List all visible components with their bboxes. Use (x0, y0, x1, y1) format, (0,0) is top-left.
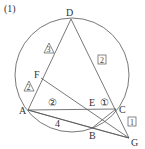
triangle-marker-2-text: 2 (27, 83, 31, 92)
label-B: B (89, 130, 96, 141)
segment-AC (28, 109, 116, 110)
label-D: D (66, 7, 73, 18)
label-G: G (131, 137, 138, 148)
segment-BG (92, 128, 129, 138)
label-E: E (89, 97, 95, 108)
label-C: C (119, 104, 126, 115)
label-A: A (19, 105, 27, 116)
label-F: F (34, 69, 40, 80)
box-marker-1-text: 1 (130, 118, 134, 127)
length-label-AB: 4 (55, 118, 60, 129)
segment-BC (92, 109, 116, 128)
circled-marker-2: ② (48, 97, 57, 108)
circumcircle (15, 18, 129, 132)
circled-marker-1: ① (100, 97, 109, 108)
box-marker-2-text: 2 (100, 56, 104, 65)
problem-number: (1) (4, 3, 16, 15)
geometry-diagram: (1) D A C B E F G 3 2 ② ① 2 1 4 (0, 0, 145, 149)
triangle-marker-3-text: 3 (47, 45, 51, 54)
segment-DG (71, 19, 129, 138)
